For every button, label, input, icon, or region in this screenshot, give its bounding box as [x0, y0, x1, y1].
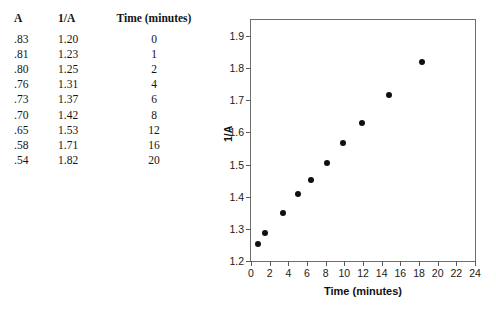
- x-axis-tick-label: 0: [248, 267, 254, 279]
- y-axis-tick: [246, 36, 251, 37]
- x-axis-tick: [251, 261, 252, 266]
- cell-inv-a: 1.23: [48, 46, 102, 61]
- y-axis-tick-label: 1.9: [229, 30, 244, 42]
- table-row: .541.8220: [8, 153, 206, 168]
- cell-inv-a: 1.20: [48, 31, 102, 46]
- data-point: [340, 140, 346, 146]
- x-axis-tick-label: 20: [432, 267, 444, 279]
- cell-time: 12: [102, 122, 206, 137]
- y-axis-tick-label: 1.4: [229, 191, 244, 203]
- y-axis-tick-label: 1.6: [229, 126, 244, 138]
- table-row: .581.7116: [8, 137, 206, 152]
- cell-time: 16: [102, 137, 206, 152]
- y-axis-tick: [246, 100, 251, 101]
- cell-a: .81: [8, 46, 48, 61]
- x-axis-tick: [288, 261, 289, 266]
- cell-a: .80: [8, 61, 48, 76]
- cell-inv-a: 1.31: [48, 77, 102, 92]
- cell-inv-a: 1.25: [48, 61, 102, 76]
- cell-inv-a: 1.71: [48, 137, 102, 152]
- x-axis-tick-label: 22: [450, 267, 462, 279]
- y-axis-tick: [246, 197, 251, 198]
- cell-time: 6: [102, 92, 206, 107]
- data-point: [255, 241, 261, 247]
- cell-a: .76: [8, 77, 48, 92]
- table-row: .701.428: [8, 107, 206, 122]
- x-axis-tick: [307, 261, 308, 266]
- cell-a: .83: [8, 31, 48, 46]
- x-axis-tick-label: 12: [357, 267, 369, 279]
- y-axis-tick-label: 1.8: [229, 62, 244, 74]
- data-point: [308, 177, 314, 183]
- data-point: [419, 59, 425, 65]
- x-axis-tick-label: 24: [469, 267, 481, 279]
- cell-a: .73: [8, 92, 48, 107]
- table-row: .831.200: [8, 31, 206, 46]
- data-point: [262, 230, 268, 236]
- column-header-inv-a: 1/A: [48, 12, 102, 31]
- cell-a: .65: [8, 122, 48, 137]
- x-axis-tick-label: 18: [413, 267, 425, 279]
- x-axis-tick-label: 6: [304, 267, 310, 279]
- x-axis-tick: [456, 261, 457, 266]
- y-axis-tick-label: 1.2: [229, 255, 244, 267]
- cell-time: 8: [102, 107, 206, 122]
- x-axis-tick: [326, 261, 327, 266]
- x-axis-tick: [382, 261, 383, 266]
- column-header-time: Time (minutes): [102, 12, 206, 31]
- table-row: .731.376: [8, 92, 206, 107]
- plot-area: 1.21.31.41.51.61.71.81.90246810121416182…: [250, 19, 476, 262]
- data-table-panel: A 1/A Time (minutes) .831.200.811.231.80…: [8, 12, 208, 168]
- cell-time: 20: [102, 153, 206, 168]
- measurements-table: A 1/A Time (minutes) .831.200.811.231.80…: [8, 12, 206, 168]
- x-axis-tick-label: 10: [338, 267, 350, 279]
- y-axis-tick: [246, 132, 251, 133]
- table-header-row: A 1/A Time (minutes): [8, 12, 206, 31]
- y-axis-tick: [246, 229, 251, 230]
- data-point: [324, 160, 330, 166]
- cell-a: .54: [8, 153, 48, 168]
- cell-a: .58: [8, 137, 48, 152]
- x-axis-tick-label: 16: [394, 267, 406, 279]
- cell-time: 4: [102, 77, 206, 92]
- cell-time: 1: [102, 46, 206, 61]
- y-axis-tick-label: 1.7: [229, 94, 244, 106]
- data-point: [359, 120, 365, 126]
- x-axis-tick: [400, 261, 401, 266]
- data-point: [280, 210, 286, 216]
- cell-a: .70: [8, 107, 48, 122]
- x-axis-title: Time (minutes): [250, 285, 476, 297]
- table-body: .831.200.811.231.801.252.761.314.731.376…: [8, 31, 206, 168]
- cell-inv-a: 1.82: [48, 153, 102, 168]
- x-axis-tick-label: 8: [323, 267, 329, 279]
- y-axis-tick-label: 1.3: [229, 223, 244, 235]
- cell-time: 0: [102, 31, 206, 46]
- x-axis-tick-label: 14: [376, 267, 388, 279]
- table-row: .761.314: [8, 77, 206, 92]
- x-axis-tick: [270, 261, 271, 266]
- x-axis-tick: [344, 261, 345, 266]
- data-point: [386, 92, 392, 98]
- x-axis-tick-label: 4: [285, 267, 291, 279]
- table-row: .651.5312: [8, 122, 206, 137]
- x-axis-tick: [475, 261, 476, 266]
- table-row: .801.252: [8, 61, 206, 76]
- cell-inv-a: 1.42: [48, 107, 102, 122]
- cell-time: 2: [102, 61, 206, 76]
- scatter-chart: 1/A 1.21.31.41.51.61.71.81.9024681012141…: [218, 0, 496, 311]
- cell-inv-a: 1.53: [48, 122, 102, 137]
- x-axis-tick: [363, 261, 364, 266]
- x-axis-tick: [419, 261, 420, 266]
- column-header-a: A: [8, 12, 48, 31]
- x-axis-tick-label: 2: [267, 267, 273, 279]
- y-axis-tick: [246, 165, 251, 166]
- data-point: [295, 191, 301, 197]
- table-row: .811.231: [8, 46, 206, 61]
- cell-inv-a: 1.37: [48, 92, 102, 107]
- y-axis-tick: [246, 68, 251, 69]
- x-axis-tick: [438, 261, 439, 266]
- table-header: A 1/A Time (minutes): [8, 12, 206, 31]
- y-axis-tick-label: 1.5: [229, 159, 244, 171]
